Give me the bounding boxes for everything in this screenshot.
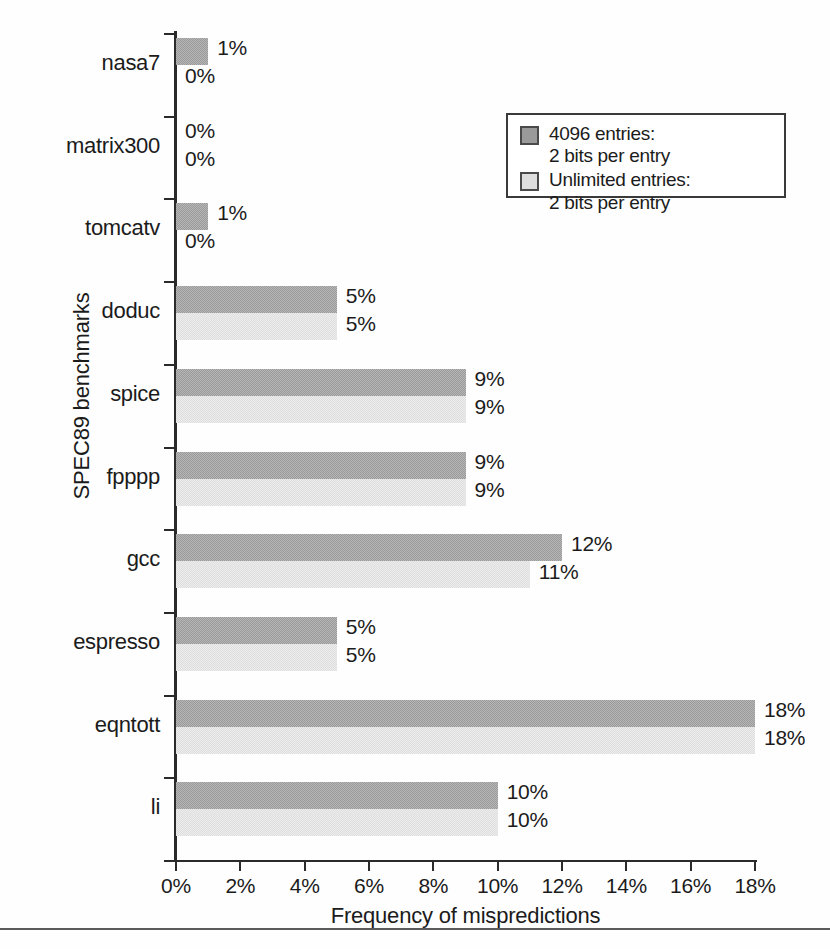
bar-value-label: 5% [346,312,376,336]
bar-value-label: 1% [217,36,247,60]
x-axis-spine [174,860,757,862]
legend-label-line1: 4096 entries: [549,123,655,144]
x-axis-tick-label: 16% [670,874,711,898]
x-axis-tick [175,860,177,871]
bar-entries-unlimited [176,727,755,754]
y-axis-tick [164,116,176,118]
x-axis-tick-label: 10% [477,874,518,898]
x-axis-title: Frequency of mispredictions [174,903,757,929]
x-axis-tick-label: 4% [290,874,320,898]
bar-value-label: 1% [217,201,247,225]
x-axis-tick [690,860,692,871]
bar-entries-4096 [176,452,466,479]
bar-value-label: 5% [346,643,376,667]
bar-value-label: 11% [539,560,579,584]
x-axis-tick-label: 12% [541,874,582,898]
bar-value-label: 10% [507,780,548,804]
x-axis-tick-label: 6% [354,874,384,898]
x-axis-tick [497,860,499,871]
y-axis-tick [164,695,176,697]
x-axis-tick [432,860,434,871]
bar-entries-unlimited [176,644,337,671]
x-axis-tick [304,860,306,871]
y-axis-category-label: espresso [73,629,160,655]
y-axis-category-label: spice [110,381,160,407]
x-axis-tick-label: 14% [606,874,647,898]
x-axis-tick-label: 8% [418,874,448,898]
y-axis-tick [164,612,176,614]
bar-entries-unlimited [176,479,466,506]
bar-value-label: 18% [764,726,805,750]
bar-entries-unlimited [176,561,530,588]
y-axis-tick [164,447,176,449]
bar-entries-4096 [176,369,466,396]
y-axis-tick [164,33,176,35]
bar-group: nasa71%0% [176,33,755,116]
y-axis-category-label: li [151,794,160,820]
legend-swatch-unlimited-entries [520,172,539,191]
bar-value-label: 5% [346,615,376,639]
bar-value-label: 0% [185,64,215,88]
legend-label-line2: 2 bits per entry [549,145,670,166]
bar-value-label: 9% [475,395,505,419]
bar-value-label: 0% [185,229,215,253]
x-axis-tick-label: 18% [734,874,775,898]
chart-legend: 4096 entries:2 bits per entry Unlimited … [506,113,786,198]
x-axis-tick [561,860,563,871]
bar-value-label: 9% [475,450,505,474]
y-axis-category-label: doduc [102,298,160,324]
bar-group: spice9%9% [176,364,755,447]
x-axis-tick-label: 0% [161,874,191,898]
bar-value-label: 5% [346,284,376,308]
bar-entries-4096 [176,782,498,809]
y-axis-category-label: matrix300 [66,133,160,159]
bar-entries-4096 [176,203,208,230]
y-axis-tick [164,281,176,283]
y-axis-category-label: fpppp [106,464,160,490]
y-axis-category-label: tomcatv [85,215,160,241]
bar-entries-4096 [176,38,208,65]
bar-value-label: 12% [571,532,612,556]
bar-entries-unlimited [176,809,498,836]
bar-value-label: 9% [475,367,505,391]
caption-divider-rule [0,928,830,930]
y-axis-title: SPEC89 benchmarks [69,236,95,556]
y-axis-category-label: gcc [127,546,160,572]
bar-value-label: 0% [185,119,215,143]
figure-page: nasa71%0%matrix3000%0%tomcatv1%0%doduc5%… [0,0,830,949]
x-axis-tick [239,860,241,871]
bar-group: gcc12%11% [176,529,755,612]
y-axis-category-label: nasa7 [102,50,160,76]
bar-value-label: 10% [507,808,548,832]
bar-group: doduc5%5% [176,281,755,364]
y-axis-tick [164,529,176,531]
x-axis-tick-label: 2% [225,874,255,898]
bar-value-label: 18% [764,698,805,722]
bar-group: eqntott18%18% [176,695,755,778]
legend-label-line1: Unlimited entries: [549,169,690,190]
bar-group: li10%10% [176,777,755,860]
legend-entry: 4096 entries:2 bits per entry [520,123,774,167]
bar-value-label: 9% [475,478,505,502]
bar-group: fpppp9%9% [176,447,755,530]
legend-label-line2: 2 bits per entry [549,192,670,213]
bar-entries-4096 [176,286,337,313]
x-axis-tick [625,860,627,871]
legend-label-4096-entries: 4096 entries:2 bits per entry [549,123,670,167]
legend-label-unlimited-entries: Unlimited entries:2 bits per entry [549,169,690,213]
bar-value-label: 0% [185,147,215,171]
bar-entries-unlimited [176,313,337,340]
bar-entries-4096 [176,700,755,727]
figure-caption-clipped [0,936,830,949]
y-axis-tick [164,364,176,366]
x-axis-tick [368,860,370,871]
y-axis-tick [164,777,176,779]
bar-entries-4096 [176,534,562,561]
y-axis-tick [164,198,176,200]
x-axis-tick [754,860,756,871]
bar-entries-unlimited [176,396,466,423]
y-axis-category-label: eqntott [95,712,160,738]
legend-entry: Unlimited entries:2 bits per entry [520,169,774,213]
bar-entries-4096 [176,617,337,644]
legend-swatch-4096-entries [520,126,539,145]
